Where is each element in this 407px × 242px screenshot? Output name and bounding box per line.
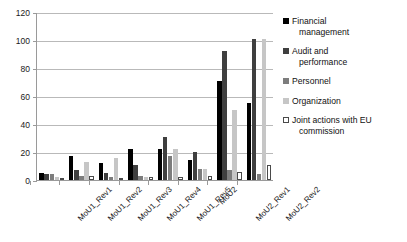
- legend-label: Personnel: [292, 76, 331, 87]
- legend-item: Joint actions with EUcommission: [283, 115, 405, 136]
- bar: [222, 51, 226, 180]
- bar: [104, 173, 108, 180]
- legend-swatch-icon: [283, 48, 289, 54]
- x-axis-tick-mark: [59, 181, 60, 185]
- x-axis-tick-mark: [30, 181, 31, 185]
- legend-label: Joint actions with EUcommission: [292, 115, 372, 136]
- x-axis-tick-mark: [119, 181, 120, 185]
- bar: [149, 177, 153, 180]
- bar: [237, 172, 241, 180]
- bar: [267, 165, 271, 180]
- legend-item: Organization: [283, 96, 405, 107]
- bar: [188, 160, 192, 180]
- bar-group: [39, 13, 64, 180]
- bar: [50, 174, 54, 180]
- legend-swatch-icon: [283, 78, 289, 84]
- bar: [217, 81, 221, 180]
- bar: [144, 177, 148, 180]
- bar-group: [69, 13, 94, 180]
- bar: [114, 158, 118, 180]
- x-axis-tick-mark: [207, 181, 208, 185]
- bar: [44, 174, 48, 180]
- bar-group: [217, 13, 242, 180]
- bar: [55, 177, 59, 180]
- x-axis-tick-mark: [178, 181, 179, 185]
- y-axis-tick-mark: [33, 153, 37, 154]
- y-axis-tick-mark: [33, 125, 37, 126]
- legend-label-line: Organization: [292, 96, 341, 106]
- y-axis-tick-mark: [33, 13, 37, 14]
- bar: [262, 39, 266, 180]
- plot-area: [36, 13, 273, 181]
- x-axis-tick-mark: [237, 181, 238, 185]
- bar: [79, 176, 83, 180]
- legend-label-line: Financial: [292, 16, 326, 26]
- bar: [89, 176, 93, 180]
- bar: [74, 170, 78, 180]
- y-axis-tick-mark: [33, 97, 37, 98]
- bar-chart: FinancialmanagementAudit andperformanceP…: [0, 0, 407, 242]
- bar: [119, 178, 123, 180]
- bar: [84, 162, 88, 180]
- bar: [60, 178, 64, 180]
- bar-group: [158, 13, 183, 180]
- y-axis-tick-mark: [33, 181, 37, 182]
- y-axis-tick-label: 120: [0, 9, 30, 17]
- bar: [257, 174, 261, 180]
- bar: [198, 169, 202, 180]
- chart-legend: FinancialmanagementAudit andperformanceP…: [283, 16, 405, 145]
- legend-swatch-icon: [283, 98, 289, 104]
- bar: [163, 137, 167, 180]
- bar: [99, 163, 103, 180]
- legend-item: Audit andperformance: [283, 46, 405, 67]
- y-axis-tick-mark: [33, 41, 37, 42]
- legend-label-line: Personnel: [292, 76, 331, 86]
- bar: [178, 177, 182, 180]
- legend-swatch-icon: [283, 117, 289, 123]
- legend-item: Financialmanagement: [283, 16, 405, 37]
- legend-label: Organization: [292, 96, 341, 107]
- bar: [39, 173, 43, 180]
- bar: [168, 156, 172, 180]
- legend-item: Personnel: [283, 76, 405, 87]
- x-axis-tick-mark: [148, 181, 149, 185]
- y-axis-tick-mark: [33, 69, 37, 70]
- bar: [109, 177, 113, 180]
- bar: [208, 176, 212, 180]
- x-axis-tick-mark: [89, 181, 90, 185]
- bar: [69, 156, 73, 180]
- bar-group: [99, 13, 124, 180]
- bar-group: [247, 13, 272, 180]
- bar: [158, 149, 162, 180]
- bar: [203, 169, 207, 180]
- legend-label-line: management: [292, 27, 349, 38]
- legend-label-line: Audit and: [292, 46, 328, 56]
- bar: [128, 149, 132, 180]
- y-axis-tick-label: 40: [0, 121, 30, 129]
- legend-label-line: Joint actions with EU: [292, 115, 372, 125]
- bar: [173, 149, 177, 180]
- bar-group: [188, 13, 213, 180]
- y-axis-tick-label: 0: [0, 177, 30, 185]
- y-axis-tick-label: 100: [0, 37, 30, 45]
- bar: [247, 103, 251, 180]
- y-axis-tick-label: 20: [0, 149, 30, 157]
- legend-swatch-icon: [283, 18, 289, 24]
- bar: [227, 170, 231, 180]
- legend-label-line: commission: [292, 126, 372, 137]
- y-axis-tick-label: 60: [0, 93, 30, 101]
- bar: [193, 152, 197, 180]
- bar-group: [128, 13, 153, 180]
- x-axis-tick-label: MoU2: [218, 185, 239, 206]
- legend-label: Financialmanagement: [292, 16, 349, 37]
- bar: [138, 176, 142, 180]
- bar: [232, 110, 236, 180]
- y-axis-tick-label: 80: [0, 65, 30, 73]
- bar: [252, 39, 256, 180]
- legend-label: Audit andperformance: [292, 46, 347, 67]
- bar: [133, 165, 137, 180]
- legend-label-line: performance: [292, 57, 347, 68]
